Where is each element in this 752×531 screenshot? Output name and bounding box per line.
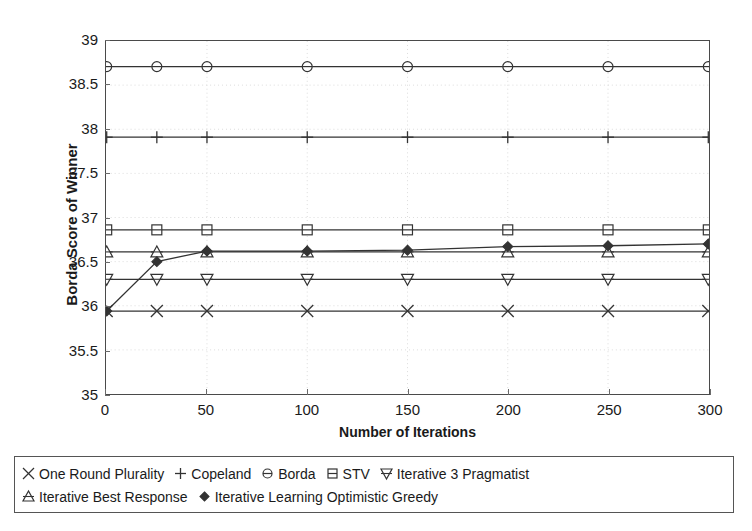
legend-label: Iterative Learning Optimistic Greedy — [215, 489, 438, 505]
x-tick-mark — [105, 389, 106, 395]
y-tick-label: 35 — [38, 387, 98, 402]
y-tick-mark — [105, 84, 110, 85]
y-tick-label: 37 — [38, 210, 98, 225]
legend-label: STV — [343, 466, 370, 482]
x-tick-mark — [609, 389, 610, 395]
x-tick-label: 50 — [176, 402, 236, 417]
legend-entry[interactable]: Borda — [260, 466, 315, 482]
x-tick-mark — [710, 389, 711, 395]
x-axis-title: Number of Iterations — [105, 424, 710, 440]
y-tick-mark — [105, 351, 110, 352]
legend-row: Iterative Best ResponseIterative Learnin… — [21, 485, 727, 508]
x-tick-mark — [307, 389, 308, 395]
legend-entry[interactable]: One Round Plurality — [21, 466, 164, 482]
y-tick-mark — [105, 218, 110, 219]
plot-area — [105, 40, 710, 395]
y-tick-label: 39 — [38, 32, 98, 47]
legend-entry[interactable]: Iterative Best Response — [21, 489, 188, 505]
series-stv — [106, 225, 709, 235]
y-tick-label: 36.5 — [38, 254, 98, 269]
chart-legend: One Round PluralityCopelandBordaSTVItera… — [14, 456, 734, 513]
legend-label: Copeland — [191, 466, 251, 482]
legend-label: Iterative 3 Pragmatist — [397, 466, 529, 482]
chart-figure: Borda Score of Winner 3535.53636.53737.5… — [0, 0, 752, 531]
legend-label: One Round Plurality — [39, 466, 164, 482]
y-tick-label: 35.5 — [38, 343, 98, 358]
y-tick-mark — [105, 129, 110, 130]
legend-entry[interactable]: Iterative Learning Optimistic Greedy — [197, 489, 438, 505]
y-tick-label: 36 — [38, 298, 98, 313]
legend-entry[interactable]: Copeland — [173, 466, 251, 482]
diamond-icon — [197, 489, 212, 504]
circle-icon — [260, 466, 275, 481]
x-tick-mark — [408, 389, 409, 395]
x-tick-label: 0 — [75, 402, 135, 417]
triangle-up-icon — [21, 489, 36, 504]
series-iterative-3-pragmatist — [106, 274, 709, 285]
series-borda — [106, 62, 709, 72]
y-tick-label: 38 — [38, 121, 98, 136]
x-tick-label: 100 — [277, 402, 337, 417]
x-cross-icon — [21, 466, 36, 481]
legend-label: Borda — [278, 466, 315, 482]
x-tick-label: 300 — [680, 402, 740, 417]
y-tick-mark — [105, 40, 110, 41]
legend-entry[interactable]: Iterative 3 Pragmatist — [379, 466, 529, 482]
y-tick-label: 37.5 — [38, 165, 98, 180]
x-tick-mark — [508, 389, 509, 395]
series-one-round-plurality — [106, 305, 709, 317]
legend-entry[interactable]: STV — [325, 466, 370, 482]
x-tick-label: 250 — [579, 402, 639, 417]
y-tick-mark — [105, 395, 110, 396]
square-icon — [325, 466, 340, 481]
x-tick-mark — [206, 389, 207, 395]
y-tick-mark — [105, 173, 110, 174]
triangle-down-icon — [379, 466, 394, 481]
legend-row: One Round PluralityCopelandBordaSTVItera… — [21, 462, 727, 485]
y-tick-mark — [105, 262, 110, 263]
plus-icon — [173, 466, 188, 481]
plot-canvas — [106, 41, 709, 394]
x-tick-label: 150 — [378, 402, 438, 417]
y-tick-mark — [105, 306, 110, 307]
series-copeland — [106, 131, 709, 143]
y-tick-label: 38.5 — [38, 76, 98, 91]
y-axis-tick-labels: 3535.53636.53737.53838.539 — [38, 0, 98, 531]
legend-label: Iterative Best Response — [39, 489, 188, 505]
x-tick-label: 200 — [478, 402, 538, 417]
